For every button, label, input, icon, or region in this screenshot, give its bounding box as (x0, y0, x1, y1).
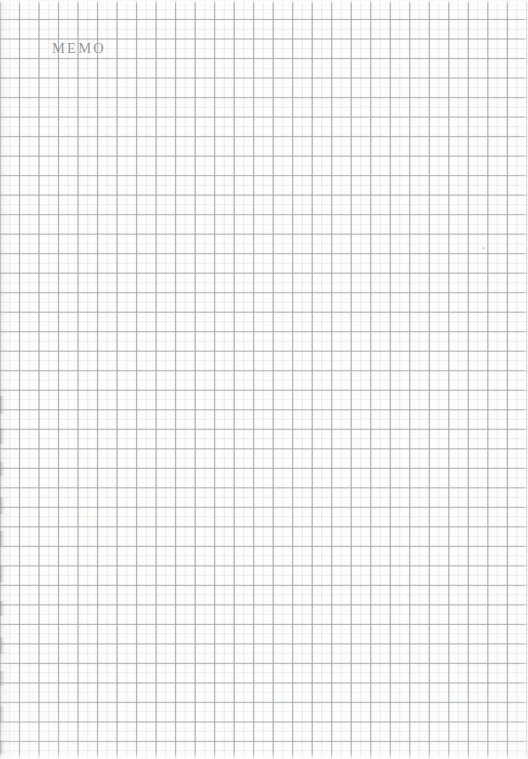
memo-page: MEMO (0, 0, 528, 759)
note-writing-area[interactable] (10, 62, 518, 752)
page-title: MEMO (52, 39, 106, 57)
